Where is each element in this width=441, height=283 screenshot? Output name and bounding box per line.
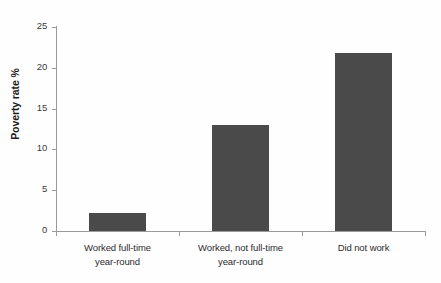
x-axis-tick-mark [425,231,426,236]
x-axis-category-label: Worked, not full-timeyear-round [179,241,302,268]
x-axis-category-label-line: Worked, not full-time [179,241,302,255]
y-axis-title: Poverty rate % [9,56,21,152]
x-axis-tick-mark [179,231,180,236]
x-axis-category-label-line: Worked full-time [56,241,179,255]
x-axis-line [56,231,425,232]
bar [335,53,392,231]
chart-title-cutoff [0,0,441,3]
y-axis-tick-label: 20 [37,61,47,72]
x-axis-category-label-line: year-round [179,255,302,269]
x-axis-tick-mark [56,231,57,236]
bar [212,125,269,231]
x-axis-category-label: Did not work [302,241,425,255]
y-axis-tick-label: 25 [37,20,47,31]
x-axis-category-label-line: Did not work [302,241,425,255]
y-axis-tick-label: 10 [37,142,47,153]
bar-chart: Poverty rate % 0510152025 Worked full-ti… [0,0,441,283]
x-axis-tick-mark [302,231,303,236]
bar [89,213,146,231]
y-axis-tick-label: 5 [42,183,47,194]
y-axis-tick-label: 15 [37,102,47,113]
x-axis-category-label-line: year-round [56,255,179,269]
plot-area [56,27,425,231]
y-axis-tick-label: 0 [42,224,47,235]
x-axis-category-label: Worked full-timeyear-round [56,241,179,268]
